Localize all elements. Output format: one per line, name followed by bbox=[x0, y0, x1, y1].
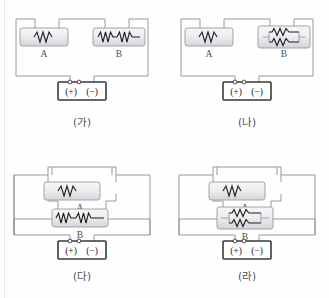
battery-minus-label-ga: (−) bbox=[86, 87, 98, 98]
panel-caption-na: (나) bbox=[165, 114, 329, 129]
box-label-b-da: B bbox=[77, 230, 83, 240]
battery-minus-label-na: (−) bbox=[251, 87, 263, 98]
resistor-box-a-ga bbox=[20, 28, 68, 46]
battery-plus-label-na: (+) bbox=[230, 87, 242, 98]
panel-da: A B (+) (−) (다) bbox=[0, 149, 164, 298]
resistor-box-a-ra bbox=[209, 182, 265, 200]
box-label-b-ga: B bbox=[116, 49, 122, 59]
battery-minus-label-ra: (−) bbox=[251, 246, 263, 257]
battery-terminal-plus-na bbox=[233, 80, 237, 84]
battery-minus-label-da: (−) bbox=[86, 246, 98, 257]
panel-ra: A B (+) (−) (라) bbox=[165, 149, 329, 298]
battery-ga: (+) (−) bbox=[58, 76, 106, 100]
panel-caption-ra: (라) bbox=[165, 268, 329, 283]
battery-plus-label-da: (+) bbox=[65, 246, 77, 257]
box-label-a-na: A bbox=[206, 49, 213, 59]
battery-terminal-minus-na bbox=[242, 80, 246, 84]
physics-circuit-figure: A B (+) (−) (가) bbox=[0, 0, 329, 298]
battery-plus-label-ga: (+) bbox=[65, 87, 77, 98]
box-label-b-na: B bbox=[281, 49, 287, 59]
panel-ga: A B (+) (−) (가) bbox=[0, 0, 164, 149]
battery-terminal-plus-ga bbox=[68, 80, 72, 84]
resistor-box-b-na bbox=[258, 26, 310, 48]
box-label-a-ga: A bbox=[41, 49, 48, 59]
battery-terminal-plus-da bbox=[68, 239, 72, 243]
battery-terminal-minus-ga bbox=[77, 80, 81, 84]
panel-na: A B (+) (−) (나) bbox=[165, 0, 329, 149]
battery-terminal-plus-ra bbox=[233, 239, 237, 243]
resistor-box-a-da bbox=[44, 182, 100, 200]
panel-caption-da: (다) bbox=[0, 268, 164, 283]
resistor-box-b-ga bbox=[93, 28, 145, 46]
battery-plus-label-ra: (+) bbox=[230, 246, 242, 257]
battery-terminal-minus-da bbox=[77, 239, 81, 243]
panel-caption-ga: (가) bbox=[0, 114, 164, 129]
battery-na: (+) (−) bbox=[223, 76, 271, 100]
battery-terminal-minus-ra bbox=[242, 239, 246, 243]
resistor-box-a-na bbox=[185, 28, 233, 46]
resistor-box-b-ra bbox=[217, 207, 273, 229]
resistor-box-b-da bbox=[52, 209, 108, 227]
